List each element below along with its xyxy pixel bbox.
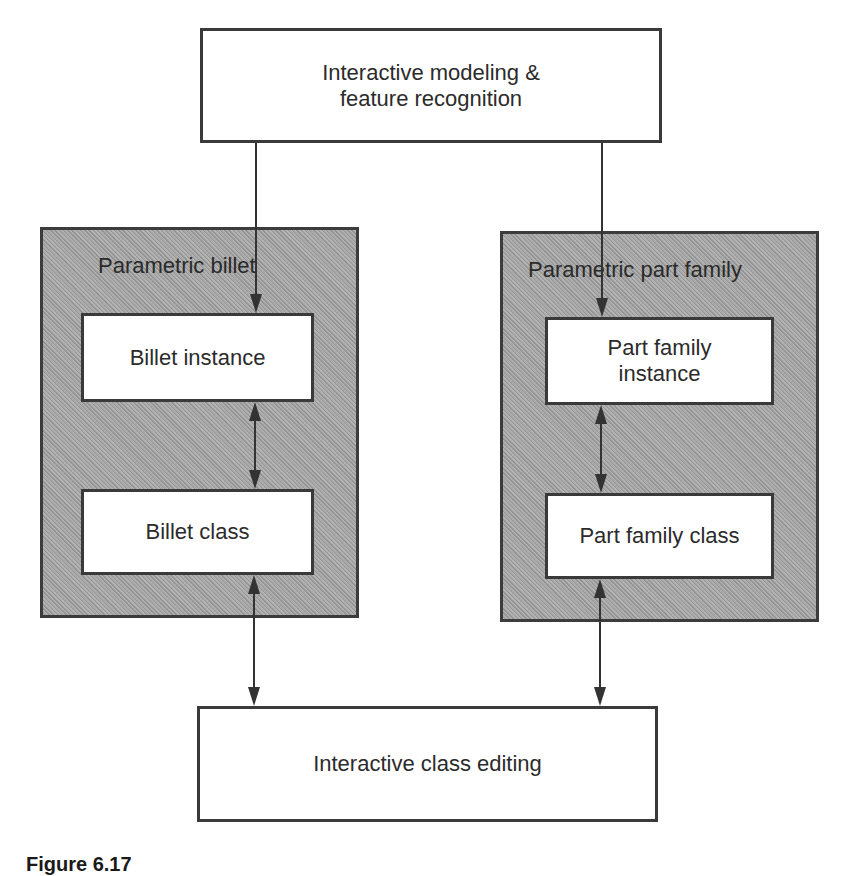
parametric-billet-label: Parametric billet — [98, 253, 256, 279]
interactive-class-editing-box: Interactive class editing — [197, 706, 658, 822]
interactive-modeling-box: Interactive modeling & feature recogniti… — [200, 28, 662, 143]
parametric-part-family-label: Parametric part family — [528, 257, 742, 283]
figure-number: Figure 6.17 — [26, 853, 132, 875]
part-family-instance-box: Part family instance — [545, 317, 774, 405]
arrowhead-down-icon — [248, 687, 260, 706]
arrowhead-down-icon — [594, 687, 606, 706]
figure-caption: Figure 6.17 — [26, 852, 132, 876]
billet-instance-box: Billet instance — [81, 313, 314, 402]
billet-class-box: Billet class — [81, 489, 314, 575]
part-family-class-box: Part family class — [545, 493, 774, 579]
